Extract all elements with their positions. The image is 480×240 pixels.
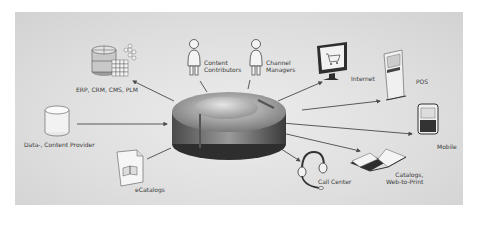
mobile-label: Mobile xyxy=(437,143,457,150)
database-cylinder-icon xyxy=(44,104,74,140)
channel-managers-label: Channel Managers xyxy=(266,59,295,73)
headset-icon xyxy=(296,148,330,194)
person-icon xyxy=(186,38,202,78)
smartphone-icon xyxy=(416,102,440,136)
person-icon xyxy=(248,38,264,78)
kiosk-cart-icon xyxy=(382,48,408,102)
central-hub-icon xyxy=(170,88,288,162)
document-book-icon xyxy=(115,148,145,188)
catalogs-label: Catalogs, Web-to-Print xyxy=(386,171,423,185)
monitor-cart-icon xyxy=(315,40,351,84)
database-grid-icon xyxy=(90,40,150,85)
erp-label: ERP, CRM, CMS, PLM xyxy=(76,86,138,93)
ecatalogs-label: eCatalogs xyxy=(135,186,165,193)
pos-label: POS xyxy=(416,78,428,85)
content-contributors-label: Content Contributors xyxy=(204,59,241,73)
call-center-label: Call Center xyxy=(318,178,351,185)
data-provider-label: Data-, Content Provider xyxy=(24,141,95,148)
internet-label: Internet xyxy=(351,75,375,82)
